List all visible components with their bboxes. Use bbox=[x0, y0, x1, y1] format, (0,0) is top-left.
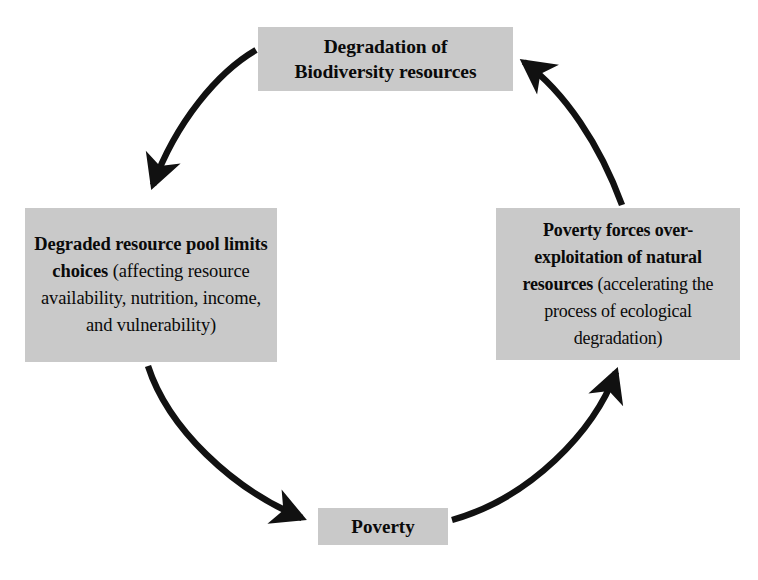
cycle-diagram: Degradation ofBiodiversity resources Deg… bbox=[0, 0, 758, 580]
node-right-label: Poverty forces over-exploitation of natu… bbox=[496, 217, 740, 352]
node-top-label: Degradation ofBiodiversity resources bbox=[258, 34, 513, 84]
node-poverty-forces-over-exploitation: Poverty forces over-exploitation of natu… bbox=[496, 208, 740, 360]
node-top-line2: Biodiversity resources bbox=[295, 61, 477, 82]
arrow-top-to-left bbox=[153, 50, 256, 185]
node-left-label: Degraded resource pool limits choices (a… bbox=[25, 231, 277, 339]
node-bottom-label: Poverty bbox=[318, 516, 448, 537]
arrow-poverty-to-right bbox=[452, 372, 616, 520]
node-degradation-of-biodiversity-resources: Degradation ofBiodiversity resources bbox=[258, 27, 513, 91]
arrow-right-to-top bbox=[524, 62, 622, 205]
node-degraded-resource-pool-limits-choices: Degraded resource pool limits choices (a… bbox=[25, 208, 277, 362]
node-top-line1: Degradation of bbox=[324, 36, 448, 57]
node-poverty: Poverty bbox=[318, 508, 448, 545]
arrow-left-to-poverty bbox=[148, 366, 302, 518]
